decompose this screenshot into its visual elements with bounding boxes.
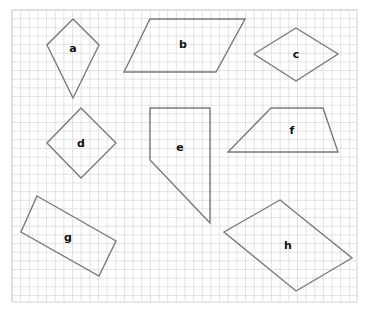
trapezoid-outline [228, 108, 338, 152]
shape-label: f [290, 124, 295, 137]
shapes-diagram: abcdefgh [0, 0, 368, 314]
shape-a: a [47, 19, 99, 98]
shape-f: f [228, 108, 338, 152]
grid-background [12, 10, 357, 302]
kite-outline [47, 19, 99, 98]
shapes-layer: abcdefgh [21, 19, 352, 291]
shape-label: b [179, 38, 187, 51]
shape-label: h [284, 239, 292, 252]
shape-label: d [77, 137, 85, 150]
shape-label: c [293, 48, 300, 61]
shape-label: a [69, 42, 76, 55]
shape-h: h [224, 200, 352, 291]
shape-label: e [176, 141, 183, 154]
shape-g: g [21, 196, 116, 276]
shape-label: g [64, 231, 72, 244]
